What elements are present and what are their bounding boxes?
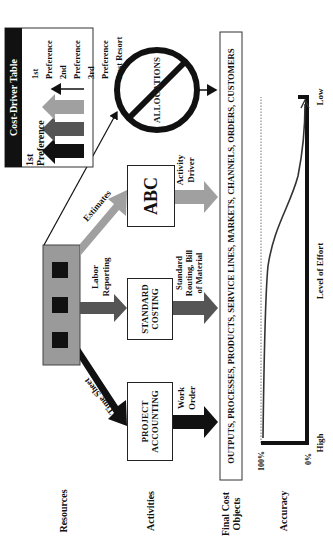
row-label-activities: Activities <box>145 476 156 546</box>
label-activity-driver: Activity Driver <box>175 152 197 188</box>
allocations-label: ALLOCATIONS <box>152 50 163 130</box>
project-accounting-box: PROJECT ACCOUNTING <box>127 382 173 461</box>
legend-label-2nd-pref: 2nd Preference <box>56 31 84 79</box>
cost-driver-diagram: Cost-Driver Table 1st Preference 1st Pre… <box>0 0 333 556</box>
accuracy-effort-chart <box>261 97 309 443</box>
row-label-accuracy: Accuracy <box>278 476 289 546</box>
chart-y-0: 0% <box>303 446 314 472</box>
legend-label-1st-pref: 1st Preference <box>28 31 56 79</box>
label-work-order: Work Order <box>176 383 198 413</box>
chart-x-high: High <box>315 428 326 458</box>
legend-label-3rd-pref: 3rd Preference <box>84 31 112 79</box>
legend-labels: 1st Preference 2nd Preference 3rd Prefer… <box>28 31 126 79</box>
label-standard-routing: Standard Routing, Bill of Material <box>174 248 204 298</box>
label-labor-reporting: Labor Reporting <box>90 255 112 299</box>
standard-costing-box: STANDARD COSTING <box>127 278 173 340</box>
row-label-final-cost-objects: Final Cost Objects <box>220 486 242 542</box>
row-label-resources: Resources <box>58 476 69 546</box>
resource-box <box>43 245 80 365</box>
chart-x-label: Level of Effort <box>315 226 326 316</box>
chart-y-100: 100% <box>256 446 267 476</box>
chart-x-low: Low <box>315 82 326 112</box>
legend-title: Cost-Driver Table <box>8 28 19 167</box>
final-cost-objects-text: OUTPUTS, PROCESSES, PRODUCTS, SERVICE LI… <box>226 32 237 480</box>
abc-box: ABC <box>127 165 175 227</box>
legend-label-last-resort: Last Resort <box>112 31 126 79</box>
